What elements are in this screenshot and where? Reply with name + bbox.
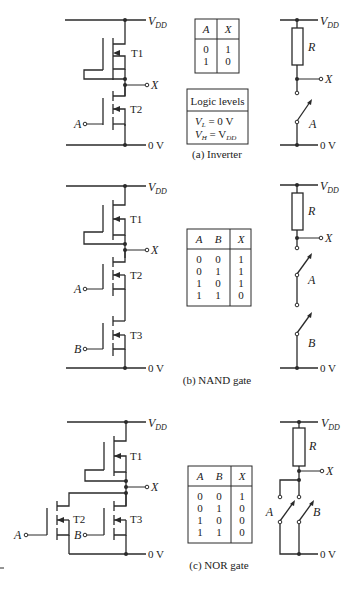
svg-text:VDD: VDD [148,416,167,432]
svg-text:0: 0 [197,490,203,502]
nand-switch-model: VDD R X A B 0 V [280,179,339,374]
svg-text:0 V: 0 V [148,548,164,560]
nand-section: VDD T1 X T2 A [66,179,339,387]
svg-text:0: 0 [225,55,231,67]
svg-text:1: 1 [238,253,244,265]
vdd-label: VDD [148,14,167,30]
svg-text:0 V: 0 V [320,362,336,374]
svg-text:B: B [215,233,222,245]
svg-text:T2: T2 [130,269,142,281]
svg-text:X: X [324,231,333,245]
svg-text:0: 0 [216,490,222,502]
svg-text:VH = VDD: VH = VDD [195,128,236,142]
svg-text:X: X [238,470,247,482]
svg-text:Logic levels: Logic levels [190,95,244,107]
inverter-truth-table: A X 0 1 1 0 [195,19,239,73]
svg-text:1: 1 [215,289,221,301]
svg-text:VDD: VDD [320,179,339,195]
a-label: A [73,117,82,131]
svg-text:X: X [150,243,159,257]
svg-text:1: 1 [216,526,222,538]
svg-text:0 V: 0 V [148,362,164,374]
svg-text:1: 1 [196,289,202,301]
svg-text:0: 0 [203,43,209,55]
svg-text:A: A [73,282,82,296]
svg-text:A: A [195,233,203,245]
svg-text:B: B [74,528,82,542]
svg-text:VDD: VDD [148,180,167,196]
inverter-section: VDD T1 X T2 [65,14,339,161]
svg-text:0: 0 [239,526,245,538]
svg-text:X: X [150,480,159,494]
svg-text:1: 1 [196,277,202,289]
t2-label: T2 [130,103,142,115]
svg-text:1: 1 [197,526,203,538]
nor-switch-model: VDD R X A B 0 V [265,416,340,560]
svg-text:0: 0 [238,289,244,301]
svg-text:1: 1 [239,490,245,502]
svg-text:B: B [313,505,321,519]
nand-truth-table: A B X 0 0 1 0 1 1 1 0 1 1 1 0 [187,229,251,306]
nor-caption: (c) NOR gate [189,559,248,572]
svg-text:T1: T1 [130,213,142,225]
svg-text:A: A [196,470,204,482]
svg-text:0: 0 [215,277,221,289]
svg-text:0: 0 [239,502,245,514]
svg-text:X: X [325,464,334,478]
nand-caption: (b) NAND gate [183,374,252,387]
svg-text:R: R [307,204,316,218]
svg-text:A: A [307,273,316,287]
svg-text:VDD: VDD [320,14,339,30]
inverter-mosfet-circuit: VDD T1 X T2 [65,14,167,151]
nor-section: VDD T1 X T2 [0,416,340,572]
logic-levels-box: Logic levels VL = 0 V VH = VDD [187,89,248,144]
svg-text:0 V: 0 V [320,139,336,151]
svg-text:R: R [307,40,316,54]
svg-text:R: R [308,439,317,453]
logic-gate-diagrams: VDD T1 X T2 [0,0,358,608]
svg-text:0: 0 [239,514,245,526]
svg-text:A: A [202,23,210,35]
nor-truth-table: A B X 0 0 1 0 1 0 1 0 0 1 1 0 [188,466,252,543]
svg-text:1: 1 [216,502,222,514]
svg-text:X: X [324,72,333,86]
svg-text:1: 1 [238,265,244,277]
svg-text:T3: T3 [130,329,143,341]
svg-text:1: 1 [197,514,203,526]
svg-text:VDD: VDD [321,416,340,432]
svg-text:0 V: 0 V [320,548,336,560]
inverter-caption: (a) Inverter [192,148,242,161]
svg-text:VL = 0 V: VL = 0 V [195,115,233,129]
svg-text:A: A [13,528,22,542]
svg-text:1: 1 [225,43,231,55]
svg-text:T2: T2 [73,513,85,525]
svg-text:0: 0 [216,514,222,526]
t1-label: T1 [131,47,143,59]
svg-text:X: X [237,233,246,245]
svg-text:A: A [265,505,274,519]
svg-text:B: B [308,336,316,350]
svg-text:T1: T1 [130,450,142,462]
svg-text:B: B [216,470,223,482]
svg-text:0: 0 [196,253,202,265]
svg-text:T3: T3 [130,513,143,525]
inverter-switch-model: VDD R X A 0 V [280,14,339,151]
svg-text:0: 0 [197,502,203,514]
svg-text:0: 0 [196,265,202,277]
svg-text:X: X [224,23,233,35]
nor-mosfet-circuit: VDD T1 X T2 [13,416,167,560]
svg-text:A: A [308,117,317,131]
x-label: X [150,78,159,92]
zero-v-label: 0 V [148,139,164,151]
svg-text:0: 0 [215,253,221,265]
svg-text:1: 1 [215,265,221,277]
svg-text:1: 1 [238,277,244,289]
svg-text:1: 1 [203,55,209,67]
nand-mosfet-circuit: VDD T1 X T2 A [66,180,167,374]
svg-text:B: B [74,342,82,356]
